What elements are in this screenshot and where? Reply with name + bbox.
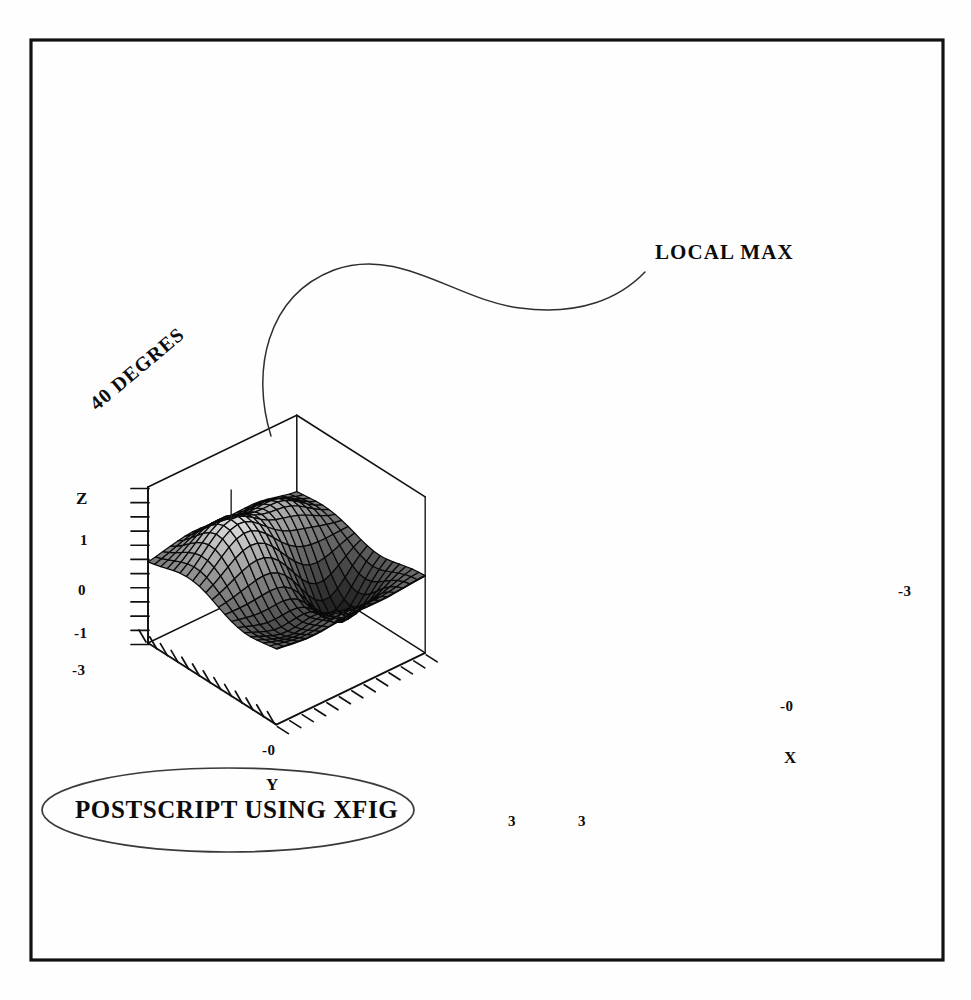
caption-text: POSTSCRIPT USING XFIG [75,796,398,824]
figure-page: LOCAL MAX 40 DEGRES POSTSCRIPT USING XFI… [0,0,971,1000]
surface-plot-figure [0,0,971,1000]
x-tick-neg3: -3 [898,583,911,600]
y-tick-neg0: -0 [262,742,275,759]
surface-3d-group [131,415,437,733]
y-axis-name: Y [266,775,279,795]
y-tick-3: 3 [508,813,516,830]
y-tick-neg3: -3 [72,662,85,679]
z-axis-name: Z [76,489,88,509]
z-tick-0: 0 [78,582,86,599]
x-axis-name: X [784,748,797,768]
z-tick-1: 1 [80,532,88,549]
z-tick-neg1: -1 [74,625,87,642]
local-max-leader-line [263,264,645,436]
x-tick-3: 3 [578,813,586,830]
local-max-label: LOCAL MAX [655,240,794,265]
x-tick-neg0: -0 [780,698,793,715]
